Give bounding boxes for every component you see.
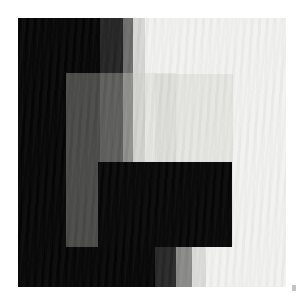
band-lower-black [18, 247, 155, 287]
band-lower-dark-gray [155, 247, 176, 287]
image-plate [18, 18, 286, 287]
band-lower-off-white [206, 247, 286, 287]
lower-step-region [18, 247, 286, 287]
band-lower-light-gray [192, 247, 206, 287]
dust-speck [292, 285, 296, 291]
artboard: Untitled grayscale field composition [0, 0, 304, 304]
band-lower-mid-gray [176, 247, 192, 287]
center-block [98, 162, 232, 247]
artwork-title: Untitled grayscale field composition [0, 0, 1, 1]
artwork-caption [0, 0, 1, 1]
